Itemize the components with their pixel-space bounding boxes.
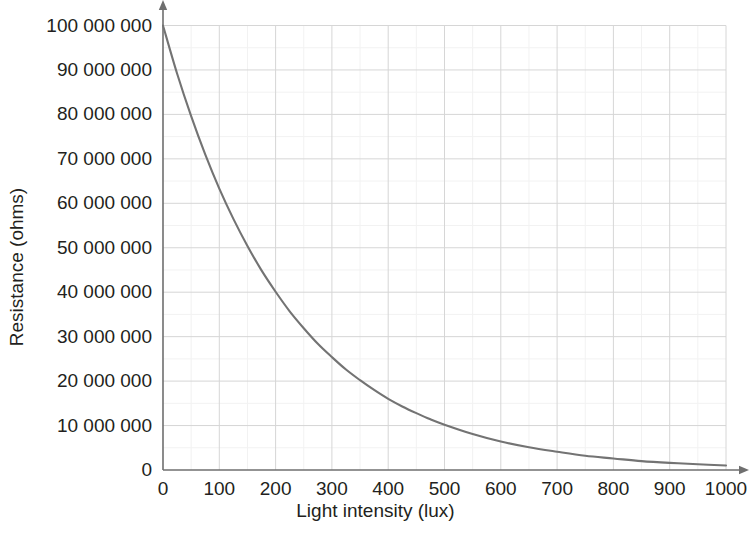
x-axis-arrowhead bbox=[739, 466, 749, 474]
x-tick-label: 600 bbox=[485, 478, 517, 500]
y-axis-title: Resistance (ohms) bbox=[0, 0, 34, 534]
x-tick-label: 500 bbox=[429, 478, 461, 500]
x-tick-label: 700 bbox=[541, 478, 573, 500]
chart-container: 010 000 00020 000 00030 000 00040 000 00… bbox=[0, 0, 751, 534]
x-tick-label: 800 bbox=[598, 478, 630, 500]
y-axis-arrowhead bbox=[159, 0, 167, 10]
x-tick-label: 100 bbox=[203, 478, 235, 500]
x-tick-label: 200 bbox=[260, 478, 292, 500]
x-axis-title: Light intensity (lux) bbox=[0, 500, 751, 522]
x-tick-label: 1000 bbox=[705, 478, 747, 500]
x-tick-label: 0 bbox=[158, 478, 169, 500]
x-tick-label: 900 bbox=[654, 478, 686, 500]
x-tick-label: 400 bbox=[372, 478, 404, 500]
x-tick-label: 300 bbox=[316, 478, 348, 500]
